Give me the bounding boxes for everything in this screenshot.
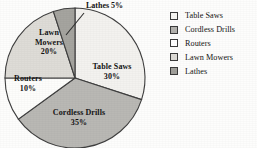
chart-legend: Table Saws Cordless Drills Routers Lawn …: [170, 9, 257, 78]
pie-label-cordless-drills: Cordless Drills 35%: [36, 108, 122, 127]
pie-label-cordless-drills-name: Cordless Drills: [53, 108, 105, 117]
legend-item-lathes[interactable]: Lathes: [170, 64, 257, 78]
pie-label-lawn-mowers-line2: Mowers: [26, 38, 72, 48]
pie-label-lawn-mowers: Lawn Mowers 20%: [26, 28, 72, 57]
legend-swatch-lathes: [170, 67, 178, 75]
pie-label-lawn-mowers-pct: 20%: [26, 47, 72, 57]
legend-item-table-saws[interactable]: Table Saws: [170, 9, 257, 23]
legend-swatch-lawn-mowers: [170, 53, 178, 61]
legend-swatch-table-saws: [170, 12, 178, 20]
pie-label-routers-name: Routers: [14, 74, 42, 83]
legend-swatch-cordless-drills: [170, 26, 178, 34]
legend-item-routers[interactable]: Routers: [170, 37, 257, 51]
pie-label-table-saws-name: Table Saws: [92, 62, 131, 71]
pie-chart-figure: Table Saws 30% Cordless Drills 35% Route…: [0, 0, 257, 148]
pie-label-lawn-mowers-line1: Lawn: [39, 28, 59, 37]
legend-label-cordless-drills: Cordless Drills: [185, 25, 235, 34]
legend-item-cordless-drills[interactable]: Cordless Drills: [170, 23, 257, 37]
legend-swatch-routers: [170, 39, 178, 47]
legend-label-table-saws: Table Saws: [185, 11, 223, 20]
pie-label-routers-pct: 10%: [4, 84, 52, 94]
legend-label-routers: Routers: [185, 39, 211, 48]
pie-chart-plot: Table Saws 30% Cordless Drills 35% Route…: [0, 0, 150, 148]
legend-item-lawn-mowers[interactable]: Lawn Mowers: [170, 50, 257, 64]
pie-label-table-saws: Table Saws 30%: [86, 62, 138, 81]
legend-label-lathes: Lathes: [185, 67, 207, 76]
legend-label-lawn-mowers: Lawn Mowers: [185, 53, 233, 62]
pie-label-cordless-drills-pct: 35%: [36, 118, 122, 128]
pie-label-routers: Routers 10%: [4, 74, 52, 93]
pie-label-table-saws-pct: 30%: [86, 72, 138, 82]
pie-label-lathes-callout: Lathes 5%: [86, 1, 148, 11]
